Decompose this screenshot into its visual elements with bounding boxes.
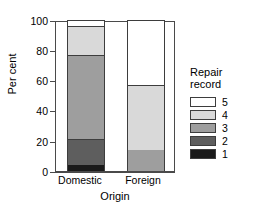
legend-swatch-5: [190, 97, 216, 107]
legend-items: 5 4 3 2 1: [190, 96, 228, 160]
bar-domestic-segment-1[interactable]: [68, 165, 104, 171]
legend-label-5: 5: [222, 97, 228, 107]
x-tick-label-domestic: Domestic: [48, 174, 112, 186]
legend-title-line2: record: [190, 78, 228, 90]
y-tick-label-20: 20: [18, 137, 48, 148]
legend: Repair record 5 4 3 2 1: [190, 66, 228, 161]
y-tick-label-100: 100: [18, 16, 48, 27]
y-axis-label: Per cent: [6, 44, 18, 104]
legend-label-2: 2: [222, 136, 228, 146]
bar-foreign-segment-4[interactable]: [128, 85, 164, 150]
legend-swatch-1: [190, 149, 216, 159]
x-axis-label: Origin: [55, 190, 175, 202]
legend-swatch-2: [190, 136, 216, 146]
bar-domestic-segment-2[interactable]: [68, 139, 104, 165]
y-tick-label-80: 80: [18, 46, 48, 57]
legend-swatch-3: [190, 123, 216, 133]
bar-domestic-segment-5[interactable]: [68, 20, 104, 26]
y-tick-label-0: 0: [18, 167, 48, 178]
y-tick-label-40: 40: [18, 106, 48, 117]
legend-label-3: 3: [222, 123, 228, 133]
legend-item-1[interactable]: 1: [190, 148, 228, 160]
legend-item-3[interactable]: 3: [190, 122, 228, 134]
legend-label-4: 4: [222, 110, 228, 120]
stacked-bar-chart: Per cent 100 80 60 40 20 0 Domestic: [0, 0, 254, 212]
bar-foreign-segment-3[interactable]: [128, 150, 164, 171]
legend-label-1: 1: [222, 149, 228, 159]
legend-item-5[interactable]: 5: [190, 96, 228, 108]
bar-foreign[interactable]: [127, 20, 165, 171]
axis-baseline: [55, 172, 175, 173]
plot-area: [55, 21, 175, 172]
bar-foreign-segment-5[interactable]: [128, 20, 164, 85]
legend-item-4[interactable]: 4: [190, 109, 228, 121]
bar-domestic-segment-3[interactable]: [68, 55, 104, 140]
legend-item-2[interactable]: 2: [190, 135, 228, 147]
bar-domestic[interactable]: [67, 20, 105, 171]
y-tick-label-60: 60: [18, 76, 48, 87]
legend-title-line1: Repair: [190, 66, 228, 78]
x-tick-label-foreign: Foreign: [112, 174, 174, 186]
bar-domestic-segment-4[interactable]: [68, 26, 104, 55]
legend-swatch-4: [190, 110, 216, 120]
